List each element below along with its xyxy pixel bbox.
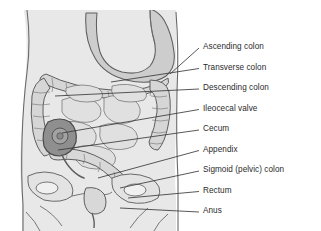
anatomy-diagram <box>0 0 321 231</box>
label-cecum: Cecum <box>203 125 229 133</box>
label-anus: Anus <box>203 207 222 215</box>
label-transverse-colon: Transverse colon <box>203 64 266 72</box>
label-rectum: Rectum <box>203 187 232 195</box>
label-ileocecal-valve: Ileocecal valve <box>203 105 257 113</box>
label-sigmoid-pelvic-colon: Sigmoid (pelvic) colon <box>203 166 284 174</box>
label-descending-colon: Descending colon <box>203 84 269 92</box>
label-ascending-colon: Ascending colon <box>203 43 264 51</box>
cecum-shape <box>43 119 76 156</box>
label-appendix: Appendix <box>203 146 238 154</box>
